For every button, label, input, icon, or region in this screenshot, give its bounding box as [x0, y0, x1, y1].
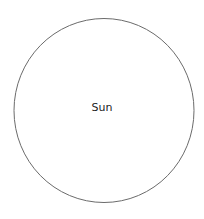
- sun-label: Sun: [0, 101, 204, 115]
